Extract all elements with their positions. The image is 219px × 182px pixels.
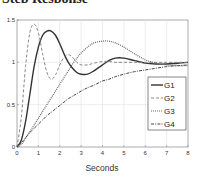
x-tick-label: 1 (37, 150, 41, 156)
x-tick-label: 5 (122, 150, 126, 156)
x-tick-label: 2 (58, 150, 62, 156)
legend-label-g1: G1 (164, 81, 175, 90)
x-tick-label: 8 (186, 150, 190, 156)
legend: G1G2G3G4 (148, 77, 186, 130)
x-tick-label: 3 (79, 150, 83, 156)
x-tick-label: 4 (101, 150, 105, 156)
legend-label-g2: G2 (164, 94, 175, 103)
legend-label-g3: G3 (164, 107, 175, 116)
step-response-chart: 012345678 00.511.5 Seconds G1G2G3G4 (0, 0, 219, 182)
x-tick-label: 6 (144, 150, 148, 156)
x-axis-label: Seconds (85, 163, 118, 173)
x-tick-label: 0 (15, 150, 19, 156)
x-tick-label: 7 (165, 150, 169, 156)
y-tick-label: 1.5 (7, 17, 16, 23)
legend-label-g4: G4 (164, 120, 175, 129)
y-tick-label: 0.5 (7, 102, 16, 108)
y-tick-label: 1 (12, 59, 16, 65)
